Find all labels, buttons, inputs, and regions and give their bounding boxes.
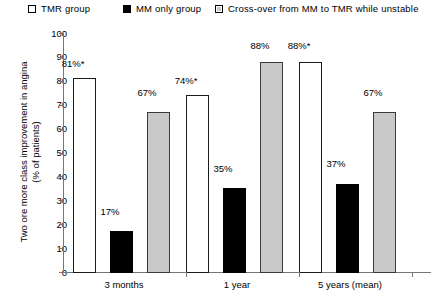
x-tick-mark-2 xyxy=(299,272,300,277)
bar-value-crossover-5-years: 67% xyxy=(350,87,396,98)
x-tick-mark-3 xyxy=(412,272,413,277)
bar-tmr-3-months xyxy=(73,78,96,273)
x-category-label-3-months: 3 months xyxy=(64,279,184,291)
bar-crossover-1-year xyxy=(260,62,283,273)
x-tick-mark-1 xyxy=(186,272,187,277)
bar-value-crossover-3-months: 67% xyxy=(124,87,170,98)
bar-mm-5-years xyxy=(336,184,359,273)
x-category-label-1-year: 1 year xyxy=(177,279,297,291)
x-category-label-5-years: 5 years (mean) xyxy=(290,279,410,291)
bar-chart-plot: Two ore more class improvement in angina… xyxy=(0,0,435,296)
bar-value-mm-5-years: 37% xyxy=(313,158,359,169)
bar-value-tmr-5-years: 88%* xyxy=(276,40,322,51)
bar-value-tmr-1-year: 74%* xyxy=(163,75,209,86)
bar-tmr-1-year xyxy=(186,95,209,273)
bar-mm-3-months xyxy=(110,231,133,273)
bar-crossover-3-months xyxy=(147,112,170,273)
bar-crossover-5-years xyxy=(373,112,396,273)
y-axis-line xyxy=(63,33,64,273)
bar-value-tmr-3-months: 81%* xyxy=(50,58,96,69)
bar-value-mm-3-months: 17% xyxy=(87,206,133,217)
y-axis-title-line1: Two ore more class improvement in angina xyxy=(18,61,29,242)
bar-mm-1-year xyxy=(223,188,246,273)
bar-value-mm-1-year: 35% xyxy=(200,163,246,174)
